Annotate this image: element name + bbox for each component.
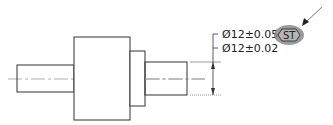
technical-drawing: Ø12±0.05 Ø12±0.02 ST bbox=[0, 0, 333, 125]
tolerance-label-2: Ø12±0.02 bbox=[222, 42, 278, 55]
arrow-head-bottom bbox=[211, 88, 215, 95]
right-shaft bbox=[145, 62, 187, 95]
tolerance-label-1: Ø12±0.05 bbox=[222, 28, 278, 41]
main-body bbox=[74, 37, 130, 120]
left-shaft bbox=[17, 65, 74, 92]
pointer-arrow bbox=[305, 7, 322, 23]
arrow-head-top bbox=[211, 62, 215, 69]
collar bbox=[130, 51, 145, 106]
st-symbol-text: ST bbox=[283, 30, 296, 41]
pointer-arrow-head bbox=[302, 18, 309, 26]
